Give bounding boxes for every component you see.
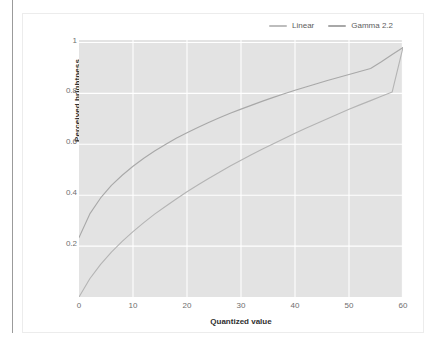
y-tick-label: 0.2: [51, 240, 77, 248]
x-tick-label: 40: [282, 302, 308, 310]
x-axis-title: Quantized value: [79, 317, 403, 326]
x-tick-label: 0: [66, 302, 92, 310]
page-root: Linear Gamma 2.2 Perceived brightness 1 …: [0, 0, 445, 352]
chart-svg: [79, 40, 403, 297]
plot-area: [79, 40, 403, 297]
gridlines-vertical: [133, 40, 402, 297]
x-tick-label: 30: [228, 302, 254, 310]
y-tick-label: 0.4: [51, 189, 77, 197]
y-axis-tick-labels: 1 0.8 0.6 0.4 0.2: [51, 14, 77, 334]
plot-wrapper: Perceived brightness 1 0.8 0.6 0.4 0.2: [23, 14, 425, 334]
y-tick-label: 0.6: [51, 138, 77, 146]
y-tick-label: 1: [51, 37, 77, 45]
x-tick-label: 50: [336, 302, 362, 310]
y-tick-label: 0.8: [51, 87, 77, 95]
x-tick-label: 10: [120, 302, 146, 310]
x-axis-tick-labels: 0 10 20 30 40 50 60: [79, 302, 403, 314]
left-margin-rule: [12, 0, 13, 333]
x-tick-label: 60: [390, 302, 416, 310]
x-tick-label: 20: [174, 302, 200, 310]
figure-card: Linear Gamma 2.2 Perceived brightness 1 …: [22, 13, 424, 333]
